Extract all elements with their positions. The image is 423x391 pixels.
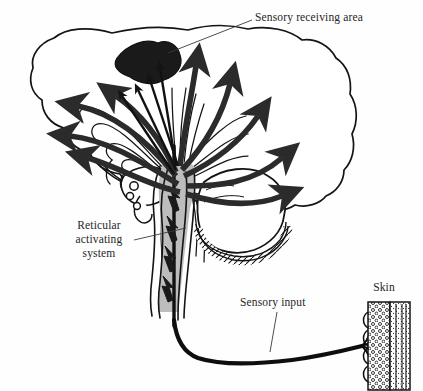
diagram-canvas: [0, 0, 423, 391]
skin-dermis: [390, 302, 410, 390]
skin-epidermis-cells: [368, 302, 390, 390]
label-reticular-activating-system-line3: system: [62, 247, 136, 261]
label-sensory-input: Sensory input: [240, 296, 306, 310]
label-reticular-activating-system-line2: activating: [62, 233, 136, 247]
label-skin: Skin: [364, 281, 404, 295]
label-reticular-activating-system-line1: Reticular: [62, 219, 136, 233]
skin-strip: [364, 302, 411, 390]
leader-line-sensory-input: [270, 312, 277, 352]
label-sensory-receiving-area: Sensory receiving area: [255, 11, 363, 25]
afferent-fiber-trunk: [174, 320, 362, 364]
sensory-input-nerve: [174, 320, 376, 370]
figure-root: Sensory receiving area Reticular activat…: [0, 0, 423, 391]
